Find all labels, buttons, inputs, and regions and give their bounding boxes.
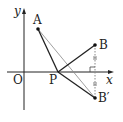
- point-bprime-label: B′: [98, 91, 110, 105]
- origin-label: O: [13, 73, 23, 87]
- point-b: [93, 43, 97, 47]
- segment-a-p: [38, 29, 58, 72]
- point-a: [36, 27, 40, 31]
- point-p-label: P: [49, 73, 57, 87]
- segment-p-b: [58, 45, 95, 72]
- segment-a-bprime: [38, 29, 95, 98]
- point-a-label: A: [32, 13, 42, 27]
- right-angle-mark: [90, 67, 95, 72]
- y-axis-label: y: [13, 4, 21, 18]
- point-b-label: B: [99, 38, 108, 52]
- x-axis-label: x: [106, 73, 113, 87]
- y-axis-arrow-icon: [22, 8, 26, 14]
- point-bprime: [93, 96, 97, 100]
- reflection-diagram: y x O A B B′ P: [0, 0, 123, 122]
